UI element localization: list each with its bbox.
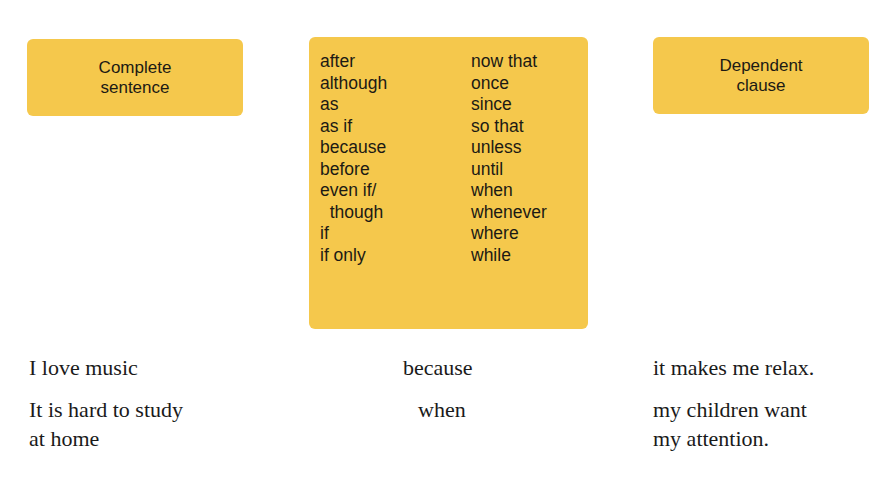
conjunction-item: though bbox=[320, 202, 387, 224]
conjunction-item: where bbox=[471, 223, 547, 245]
conjunctions-column-2: now that once since so that unless until… bbox=[471, 51, 547, 266]
conjunction-item: while bbox=[471, 245, 547, 267]
complete-sentence-label: Complete sentence bbox=[99, 58, 172, 98]
conjunction-item: once bbox=[471, 73, 547, 95]
conjunctions-column-1: after although as as if because before e… bbox=[320, 51, 387, 266]
conjunction-item: when bbox=[471, 180, 547, 202]
conjunction-item: so that bbox=[471, 116, 547, 138]
example-2-complete-sentence-line-1: It is hard to study bbox=[29, 396, 183, 424]
complete-sentence-label-box: Complete sentence bbox=[27, 39, 243, 116]
conjunction-item: even if/ bbox=[320, 180, 387, 202]
dependent-clause-label: Dependent clause bbox=[719, 56, 802, 96]
example-1-conjunction: because bbox=[403, 354, 473, 382]
example-2-dependent-clause-line-1: my children want bbox=[653, 396, 807, 424]
label-line: clause bbox=[719, 76, 802, 96]
conjunction-item: since bbox=[471, 94, 547, 116]
conjunction-item: until bbox=[471, 159, 547, 181]
example-2-complete-sentence-line-2: at home bbox=[29, 425, 99, 453]
example-1-complete-sentence: I love music bbox=[29, 354, 138, 382]
label-line: Dependent bbox=[719, 56, 802, 76]
example-2-conjunction: when bbox=[418, 396, 466, 424]
example-1-dependent-clause: it makes me relax. bbox=[653, 354, 814, 382]
conjunction-item: after bbox=[320, 51, 387, 73]
label-line: sentence bbox=[99, 78, 172, 98]
conjunction-item: unless bbox=[471, 137, 547, 159]
conjunction-item: if bbox=[320, 223, 387, 245]
conjunction-item: although bbox=[320, 73, 387, 95]
subordinating-conjunctions-box: after although as as if because before e… bbox=[309, 37, 588, 329]
example-2-dependent-clause-line-2: my attention. bbox=[653, 425, 769, 453]
conjunction-item: because bbox=[320, 137, 387, 159]
conjunction-item: if only bbox=[320, 245, 387, 267]
label-line: Complete bbox=[99, 58, 172, 78]
conjunction-item: now that bbox=[471, 51, 547, 73]
conjunction-item: as if bbox=[320, 116, 387, 138]
conjunction-item: before bbox=[320, 159, 387, 181]
conjunction-item: as bbox=[320, 94, 387, 116]
dependent-clause-label-box: Dependent clause bbox=[653, 37, 869, 114]
conjunction-item: whenever bbox=[471, 202, 547, 224]
